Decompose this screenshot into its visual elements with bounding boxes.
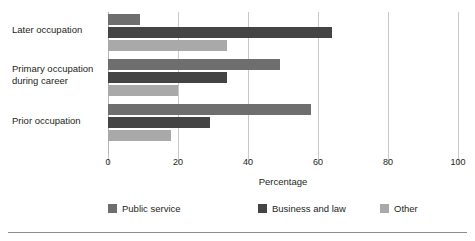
bar-group bbox=[108, 59, 458, 98]
bar-row bbox=[108, 72, 458, 83]
bar bbox=[108, 59, 280, 70]
category-label-later-occupation: Later occupation bbox=[12, 24, 104, 36]
bar-row bbox=[108, 27, 458, 38]
bar-row bbox=[108, 104, 458, 115]
bar-row bbox=[108, 14, 458, 25]
legend-item[interactable]: Business and law bbox=[258, 203, 346, 214]
bar bbox=[108, 85, 178, 96]
tick-label-40: 40 bbox=[243, 157, 253, 167]
plot-area bbox=[108, 12, 458, 155]
bar bbox=[108, 27, 332, 38]
bar-row bbox=[108, 59, 458, 70]
bar-group bbox=[108, 104, 458, 143]
bar-group bbox=[108, 14, 458, 53]
bottom-divider bbox=[8, 232, 467, 233]
legend-item[interactable]: Other bbox=[380, 203, 418, 214]
bar bbox=[108, 130, 171, 141]
category-label-prior-occupation: Prior occupation bbox=[12, 115, 104, 127]
legend-label: Public service bbox=[122, 203, 181, 214]
tick-label-60: 60 bbox=[313, 157, 323, 167]
tick-label-80: 80 bbox=[383, 157, 393, 167]
bar bbox=[108, 40, 227, 51]
bar bbox=[108, 14, 140, 25]
bar-row bbox=[108, 85, 458, 96]
tick-label-100: 100 bbox=[450, 157, 465, 167]
bar-row bbox=[108, 40, 458, 51]
legend-label: Other bbox=[394, 203, 418, 214]
legend-item[interactable]: Public service bbox=[108, 203, 181, 214]
bar bbox=[108, 104, 311, 115]
gridline-100 bbox=[458, 12, 459, 155]
tick-label-20: 20 bbox=[173, 157, 183, 167]
bar bbox=[108, 117, 210, 128]
chart-legend: Public serviceBusiness and lawOther bbox=[108, 203, 458, 217]
legend-swatch-icon bbox=[108, 204, 117, 213]
bar bbox=[108, 72, 227, 83]
legend-swatch-icon bbox=[380, 204, 389, 213]
legend-swatch-icon bbox=[258, 204, 267, 213]
category-label-primary-occupation-during-career: Primary occupationduring career bbox=[12, 63, 104, 86]
bar-row bbox=[108, 117, 458, 128]
legend-label: Business and law bbox=[272, 203, 346, 214]
bar-row bbox=[108, 130, 458, 141]
tick-label-0: 0 bbox=[105, 157, 110, 167]
bar-chart-figure: Later occupation Primary occupationdurin… bbox=[0, 0, 475, 241]
x-axis-title: Percentage bbox=[108, 176, 458, 187]
